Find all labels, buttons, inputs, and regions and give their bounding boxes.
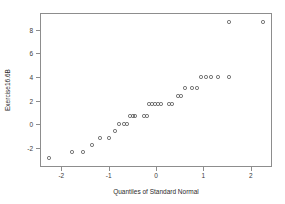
data-point [227, 75, 230, 78]
y-tick-label: 8 [29, 26, 33, 33]
y-tick-label: -2 [27, 145, 33, 152]
y-tick-label: 0 [29, 121, 33, 128]
data-point [90, 143, 93, 146]
plot-frame [40, 13, 272, 167]
data-point [125, 122, 128, 125]
data-point [199, 75, 202, 78]
data-point [159, 102, 162, 105]
y-tick-label: 4 [29, 73, 33, 80]
data-point [133, 114, 136, 117]
data-point [107, 136, 110, 139]
data-point [204, 75, 207, 78]
x-tick [156, 167, 157, 171]
x-tick [109, 167, 110, 171]
x-tick [251, 167, 252, 171]
x-tick-label: 0 [154, 172, 158, 179]
data-point [195, 86, 198, 89]
plot-area [41, 14, 271, 166]
data-point [183, 86, 186, 89]
data-point [98, 136, 101, 139]
data-point [145, 114, 148, 117]
y-axis-title: Exercise16.6B [4, 69, 11, 111]
y-tick [36, 101, 40, 102]
y-tick-label: 2 [29, 97, 33, 104]
y-tick-label: 6 [29, 50, 33, 57]
data-point [190, 86, 193, 89]
x-tick [203, 167, 204, 171]
data-point [70, 150, 73, 153]
data-point [170, 102, 173, 105]
data-point [117, 122, 120, 125]
y-tick [36, 30, 40, 31]
data-point [261, 20, 264, 23]
data-point [179, 94, 182, 97]
x-tick-label: 1 [202, 172, 206, 179]
x-tick [61, 167, 62, 171]
data-point [216, 75, 219, 78]
y-tick [36, 53, 40, 54]
x-axis-title: Quantiles of Standard Normal [40, 188, 272, 195]
y-tick [36, 77, 40, 78]
y-tick [36, 124, 40, 125]
data-point [81, 150, 84, 153]
data-point [209, 75, 212, 78]
x-tick-label: 2 [249, 172, 253, 179]
data-point [227, 20, 230, 23]
data-point [47, 156, 50, 159]
data-point [113, 129, 116, 132]
x-tick-label: -1 [106, 172, 112, 179]
y-tick [36, 148, 40, 149]
x-tick-label: -2 [58, 172, 64, 179]
qq-plot: -2-1012 -202468 Quantiles of Standard No… [0, 0, 285, 204]
